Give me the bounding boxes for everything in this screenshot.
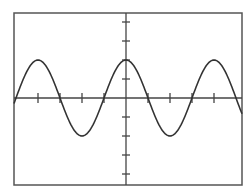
axes: [14, 13, 242, 185]
chart-frame: [14, 13, 242, 185]
waveform-chart: [0, 0, 252, 194]
